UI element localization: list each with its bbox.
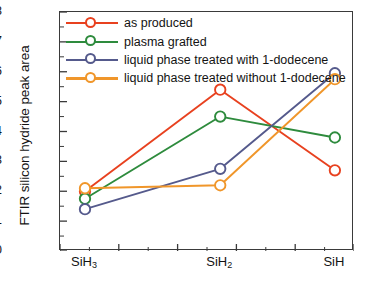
legend-item: liquid phase treated with 1-dodecene	[66, 51, 348, 69]
x-tick-label: SiH	[304, 254, 364, 269]
legend-item: liquid phase treated without 1-dodecene	[66, 69, 348, 87]
legend-label: plasma grafted	[118, 35, 207, 49]
legend-label: liquid phase treated with 1-dodecene	[118, 53, 328, 67]
y-tick-label: 0.4	[0, 125, 2, 138]
legend-marker-icon	[85, 17, 96, 28]
y-tick-label: 0.2	[0, 184, 2, 197]
data-point-marker	[330, 132, 340, 142]
x-tick-label: SiH3	[54, 254, 114, 270]
x-tick-label: SiH2	[189, 254, 249, 270]
chart-figure: FTIR silicon hydride peak area 00.10.20.…	[0, 0, 368, 281]
legend-key	[66, 69, 118, 87]
legend-key	[66, 33, 118, 51]
y-tick-label: 0.7	[0, 35, 2, 48]
y-tick-label: 0.6	[0, 65, 2, 78]
legend-item: as produced	[66, 14, 348, 32]
legend-item: plasma grafted	[66, 32, 348, 50]
data-point-marker	[215, 180, 225, 190]
data-point-marker	[215, 164, 225, 174]
data-point-marker	[80, 183, 90, 193]
legend-marker-icon	[85, 35, 96, 46]
legend-marker-icon	[85, 53, 96, 64]
legend-key	[66, 51, 118, 69]
data-point-marker	[80, 204, 90, 214]
legend-label: liquid phase treated without 1-dodecene	[118, 71, 346, 85]
series-line	[85, 73, 335, 209]
data-point-marker	[215, 111, 225, 121]
y-tick-label: 0.3	[0, 154, 2, 167]
legend-label: as produced	[118, 16, 193, 30]
y-tick-label: 0	[0, 244, 2, 257]
y-tick-label: 0.1	[0, 214, 2, 227]
legend-marker-icon	[85, 72, 96, 83]
data-point-marker	[80, 194, 90, 204]
legend-key	[66, 14, 118, 32]
chart-legend: as producedplasma graftedliquid phase tr…	[66, 14, 348, 88]
data-point-marker	[330, 165, 340, 175]
y-tick-label: 0.5	[0, 95, 2, 108]
y-tick-label: 0.8	[0, 5, 2, 18]
